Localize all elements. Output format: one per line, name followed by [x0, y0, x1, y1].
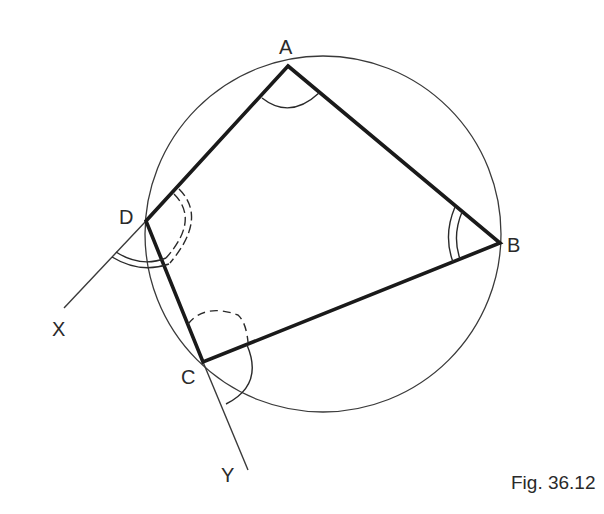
label-c: C — [181, 366, 195, 388]
label-x: X — [52, 318, 65, 340]
angle-mark-d-interior-outer — [170, 189, 192, 263]
circumcircle — [145, 56, 501, 412]
quadrilateral-abcd — [146, 66, 500, 362]
extension-line-cy — [203, 362, 248, 470]
figure-caption: Fig. 36.12 — [511, 472, 596, 493]
angle-mark-b-inner — [456, 212, 462, 259]
angle-mark-c-interior — [188, 311, 248, 342]
label-y: Y — [221, 464, 234, 486]
label-d: D — [119, 206, 133, 228]
label-b: B — [507, 234, 520, 256]
angle-mark-a — [262, 93, 319, 108]
extension-line-dx — [64, 221, 146, 308]
cyclic-quadrilateral-diagram: A B C D X Y Fig. 36.12 — [0, 0, 604, 514]
angle-mark-b-outer — [448, 207, 455, 262]
angle-mark-d-interior-inner — [166, 194, 185, 258]
label-a: A — [279, 36, 293, 58]
